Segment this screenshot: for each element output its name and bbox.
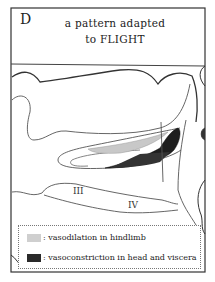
legend-label: : vasoconstriction in head and viscera <box>43 253 197 262</box>
outline-right-vertical <box>178 120 196 225</box>
outline-right-mid <box>201 128 205 140</box>
panel-title-line1: a pattern adapted <box>40 16 190 30</box>
outline-lower-lower <box>44 195 178 213</box>
title-divider <box>11 64 205 66</box>
dark-swatch-icon <box>27 254 41 262</box>
outline-right-top <box>200 66 205 86</box>
legend-label: : vasodilation in hindlimb <box>43 233 146 242</box>
panel-title-line2: to FLIGHT <box>40 32 190 46</box>
light-gray-swatch-icon <box>27 234 41 242</box>
vasoconstriction-lower <box>110 152 170 168</box>
outline-lower-upper <box>12 183 178 204</box>
region-label-iv: IV <box>128 200 138 210</box>
legend-item-vasodilation: : vasodilation in hindlimb <box>27 233 146 242</box>
panel-letter: D <box>20 11 31 27</box>
outline-top <box>12 70 197 122</box>
region-label-iii: III <box>73 186 84 196</box>
legend-item-vasoconstriction: : vasoconstriction in head and viscera <box>27 253 197 262</box>
legend: : vasodilation in hindlimb : vasoconstri… <box>18 225 201 269</box>
